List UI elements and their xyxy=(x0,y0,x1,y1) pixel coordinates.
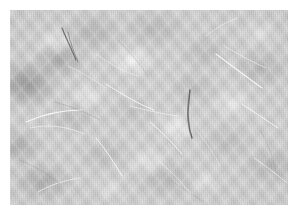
bright-fiber-5 xyxy=(130,106,178,116)
bright-fiber-4 xyxy=(106,84,154,110)
sensor-grain-overlay xyxy=(10,10,288,205)
bright-fiber-7 xyxy=(216,54,262,88)
bright-fiber-11 xyxy=(206,18,238,36)
scanline-overlay xyxy=(10,10,288,205)
bright-fiber-3 xyxy=(96,138,122,176)
fiber-weave-layer-a xyxy=(10,10,288,205)
bright-fiber-16 xyxy=(196,130,220,166)
fiber-weave-layer-b xyxy=(10,10,288,205)
bright-fiber-8 xyxy=(224,46,266,68)
dark-fiber-upper-left xyxy=(62,28,76,60)
grey-fiber-group xyxy=(20,40,276,202)
micrograph-plate: Grayscale close-up micrograph of a fibro… xyxy=(10,10,288,205)
grey-fiber-1 xyxy=(54,102,100,120)
bright-fiber-9 xyxy=(242,104,278,128)
bright-fiber-2 xyxy=(30,126,84,134)
image-alt-text: Grayscale close-up micrograph of a fibro… xyxy=(10,10,11,11)
vignette-overlay xyxy=(10,10,288,205)
grey-fiber-2 xyxy=(118,40,148,76)
grey-fiber-4 xyxy=(20,160,60,184)
bright-fiber-10 xyxy=(254,158,286,182)
bright-fiber-6 xyxy=(150,122,182,154)
bright-fiber-group xyxy=(26,18,286,194)
base-tone-layer xyxy=(10,10,288,205)
fiber-filament-layer xyxy=(10,10,288,205)
image-viewport: Grayscale close-up micrograph of a fibro… xyxy=(0,0,298,215)
bright-fiber-12 xyxy=(38,178,80,192)
bright-fiber-14 xyxy=(96,54,138,76)
dark-fiber-center xyxy=(188,90,192,138)
grey-fiber-5 xyxy=(170,180,204,202)
dark-fiber-upper-left-b xyxy=(68,32,78,62)
grey-fiber-3 xyxy=(260,130,276,172)
dark-fiber-group xyxy=(62,28,192,138)
bright-fiber-13 xyxy=(160,162,190,194)
bright-fiber-1 xyxy=(26,110,82,122)
bright-tuft-layer xyxy=(10,10,288,205)
dark-mottling-layer-a xyxy=(10,10,288,205)
dark-mottling-layer-b xyxy=(10,10,288,205)
bright-fiber-15 xyxy=(68,66,106,88)
